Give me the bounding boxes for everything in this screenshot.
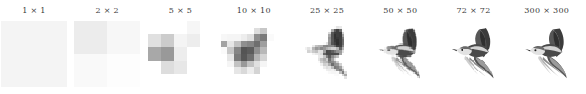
pixel: [432, 86, 433, 87]
pixel: [267, 47, 274, 54]
panel-25x25: 25 × 25: [293, 0, 361, 94]
pixel: [247, 41, 254, 48]
pixel: [174, 61, 187, 74]
pixel: [200, 21, 213, 34]
pixel: [247, 74, 254, 81]
pixel: [241, 54, 248, 61]
panel-title-1x1: 1 × 1: [0, 6, 68, 16]
panel-title-5x5: 5 × 5: [147, 6, 215, 16]
pixel: [267, 41, 274, 48]
pixel: [254, 67, 261, 74]
pixel: [274, 80, 281, 87]
pixel: [234, 47, 241, 54]
pixel: [254, 80, 261, 87]
pixel: [227, 34, 234, 41]
panel-title-2x2: 2 × 2: [73, 6, 141, 16]
pixel-grid-2: [74, 21, 140, 87]
pixel: [187, 61, 200, 74]
pixel: [148, 61, 161, 74]
pixel: [254, 28, 261, 35]
pixel: [74, 21, 107, 54]
pixel: [241, 61, 248, 68]
pixel: [221, 74, 228, 81]
pixel: [254, 47, 261, 54]
pixel: [280, 61, 287, 68]
pixel: [260, 67, 267, 74]
pixel: [267, 67, 274, 74]
pixel: [234, 80, 241, 87]
pixel: [234, 21, 241, 28]
pixel: [241, 80, 248, 87]
pixel: [161, 47, 174, 60]
pixel: [274, 41, 281, 48]
pixel: [221, 21, 228, 28]
pixel: [280, 21, 287, 28]
pixel: [1, 21, 67, 87]
panel-300x300: 300 × 300: [513, 0, 581, 94]
pixel: [221, 34, 228, 41]
pixel: [247, 28, 254, 35]
pixel: [274, 47, 281, 54]
pixel: [260, 21, 267, 28]
pixel: [227, 80, 234, 87]
pixel: [357, 84, 360, 87]
pixel: [241, 41, 248, 48]
pixel: [227, 74, 234, 81]
pixel: [274, 34, 281, 41]
pixel: [280, 67, 287, 74]
pixel: [241, 47, 248, 54]
pixel: [227, 61, 234, 68]
pixel: [148, 74, 161, 87]
panel-10x10: 10 × 10: [220, 0, 288, 94]
pixel: [227, 21, 234, 28]
pixel: [161, 21, 174, 34]
pixel: [267, 54, 274, 61]
pixel: [234, 41, 241, 48]
pixel: [187, 21, 200, 34]
pixel: [247, 67, 254, 74]
pixel: [280, 54, 287, 61]
pixel: [280, 41, 287, 48]
pixel: [221, 67, 228, 74]
pixel: [254, 61, 261, 68]
pixel: [267, 34, 274, 41]
pixel: [260, 54, 267, 61]
panel-title-25x25: 25 × 25: [293, 6, 361, 16]
pixel: [187, 74, 200, 87]
panel-72x72: 72 × 72: [440, 0, 508, 94]
pixel: [260, 47, 267, 54]
panel-image-50x50: [367, 21, 433, 87]
pixel: [280, 74, 287, 81]
pixel: [221, 80, 228, 87]
pixel-grid-10: [221, 21, 287, 87]
panel-title-300x300: 300 × 300: [513, 6, 581, 16]
panel-image-5x5: [148, 21, 214, 87]
pixel: [221, 61, 228, 68]
pixel: [260, 28, 267, 35]
panel-5x5: 5 × 5: [147, 0, 215, 94]
pixel: [174, 21, 187, 34]
pixel: [274, 61, 281, 68]
pixel: [267, 21, 274, 28]
pixel: [161, 34, 174, 47]
panel-title-50x50: 50 × 50: [366, 6, 434, 16]
pixel-grid-50: [367, 21, 433, 87]
pixel: [221, 47, 228, 54]
pixel: [200, 74, 213, 87]
pixel: [241, 21, 248, 28]
pixel: [174, 34, 187, 47]
pixel: [274, 28, 281, 35]
pixel: [260, 61, 267, 68]
pixel: [247, 34, 254, 41]
pixel: [200, 61, 213, 74]
pixel: [200, 34, 213, 47]
pixel: [174, 74, 187, 87]
pixel: [227, 67, 234, 74]
pixel: [234, 74, 241, 81]
pixel: [221, 54, 228, 61]
pixel: [274, 67, 281, 74]
pixel: [161, 74, 174, 87]
panel-50x50: 50 × 50: [366, 0, 434, 94]
pixel: [247, 47, 254, 54]
pixel: [280, 47, 287, 54]
